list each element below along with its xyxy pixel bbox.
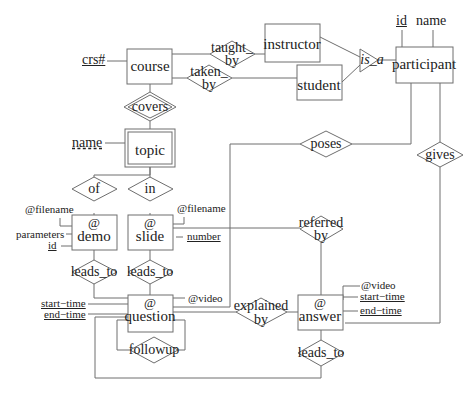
entity-question-label: question bbox=[125, 309, 176, 324]
attr-answer-start-time: start−time bbox=[360, 291, 405, 302]
entity-student-label: student bbox=[297, 78, 340, 93]
rel-taken-by-label-2: by bbox=[202, 78, 216, 91]
rel-answer-leads-to-label: leads_to bbox=[298, 346, 345, 359]
rel-referred-by-label-2: by bbox=[314, 229, 328, 242]
rel-is-a-label: is_a bbox=[360, 53, 383, 66]
rel-demo-leads-to-label: leads_to bbox=[71, 265, 118, 278]
attr-demo-parameters: parameters bbox=[16, 229, 64, 240]
entity-participant-label: participant bbox=[392, 57, 456, 72]
entity-topic-label: topic bbox=[135, 143, 165, 158]
attr-question-end-time: end−time bbox=[44, 309, 86, 320]
rel-explained-by-label-2: by bbox=[254, 313, 268, 326]
attr-course-crs: crs# bbox=[82, 53, 105, 67]
er-diagram: course instructor student participant to… bbox=[0, 0, 475, 397]
attr-slide-filename: @filename bbox=[177, 203, 226, 214]
rel-followup-label: followup bbox=[129, 343, 180, 356]
rel-poses-label: poses bbox=[310, 137, 341, 150]
attr-demo-filename: @filename bbox=[25, 204, 74, 215]
attr-participant-name: name bbox=[416, 14, 446, 28]
rel-explained-by-label-1: explained bbox=[234, 299, 288, 312]
rel-covers-label: covers bbox=[132, 100, 169, 113]
rel-gives-label: gives bbox=[425, 148, 455, 161]
rel-slide-leads-to-label: leads_to bbox=[127, 265, 174, 278]
rel-in-label: in bbox=[145, 182, 156, 195]
entity-instructor-label: instructor bbox=[263, 37, 321, 52]
attr-topic-name: name bbox=[72, 136, 102, 150]
entity-demo-label: demo bbox=[77, 229, 110, 244]
entity-course-label: course bbox=[130, 59, 169, 74]
rel-of-label: of bbox=[88, 182, 100, 195]
connector-lines bbox=[60, 30, 440, 378]
entity-answer-label: answer bbox=[299, 309, 341, 324]
entity-slide-label: slide bbox=[136, 229, 164, 244]
attr-answer-end-time: end−time bbox=[360, 305, 402, 316]
attr-slide-number: number bbox=[187, 231, 221, 242]
attr-demo-id: id bbox=[48, 240, 57, 251]
attr-participant-id: id bbox=[396, 14, 407, 28]
attr-question-video: @video bbox=[188, 293, 223, 304]
